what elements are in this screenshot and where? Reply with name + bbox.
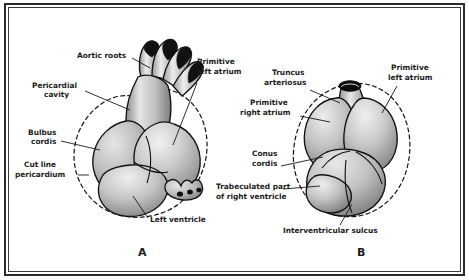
label-primitive-right-atrium-line1: Primitive — [250, 98, 288, 107]
label-primitive-left-atrium-a-line2: left atrium — [197, 67, 242, 76]
label-pericardial-cavity-line2: cavity — [44, 90, 69, 99]
label-primitive-right-atrium-line2: right atrium — [240, 108, 291, 117]
label-cut-line-pericardium-line1: Cut line — [24, 160, 56, 169]
label-trabeculated-right-ventricle-line2: of right ventricle — [216, 192, 286, 201]
figure-root: Aortic roots Pericardial cavity Bulbus c… — [0, 0, 469, 280]
label-truncus-arteriosus-line1: Truncus — [272, 68, 305, 77]
label-primitive-left-atrium-a-line1: Primitive — [197, 57, 235, 66]
label-truncus-arteriosus-line2: arteriosus — [264, 78, 307, 87]
label-trabeculated-right-ventricle-line1: Trabeculated part — [216, 182, 291, 191]
leader-pericardial-cavity — [85, 91, 130, 110]
label-cut-line-pericardium-line2: pericardium — [15, 170, 66, 179]
sinus-nodule-1 — [177, 191, 183, 196]
leader-primitive-left-atrium-b — [382, 86, 397, 113]
panel-a-illustration — [74, 39, 207, 217]
panel-b-illustration — [293, 81, 410, 217]
label-primitive-left-atrium-b-line1: Primitive — [391, 63, 429, 72]
sinus-nodule-3 — [196, 188, 201, 193]
label-interventricular-sulcus: Interventricular sulcus — [283, 226, 378, 235]
leader-bulbus-cordis — [61, 141, 100, 150]
label-conus-cordis-line2: cordis — [252, 159, 278, 168]
panel-letter-b: B — [357, 246, 365, 259]
label-primitive-left-atrium-b-line2: left atrium — [388, 73, 433, 82]
sinus-nodule-2 — [187, 190, 193, 195]
label-aortic-roots: Aortic roots — [77, 51, 127, 60]
label-bulbus-cordis-line1: Bulbus — [28, 128, 57, 137]
panel-letter-a: A — [138, 246, 147, 259]
label-left-ventricle: Left ventricle — [150, 215, 206, 224]
label-pericardial-cavity-line1: Pericardial — [32, 81, 77, 90]
label-bulbus-cordis-line2: cordis — [31, 137, 57, 146]
figure-illustration: Aortic roots Pericardial cavity Bulbus c… — [0, 0, 469, 280]
label-conus-cordis-line1: Conus — [252, 149, 278, 158]
